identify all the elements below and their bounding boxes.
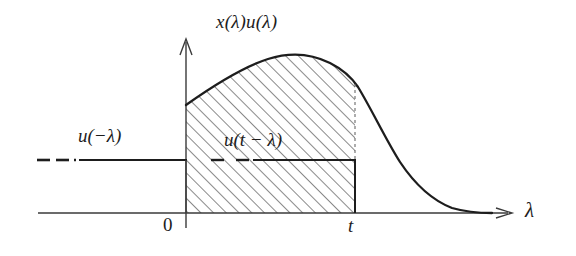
x-axis-label: λ (525, 200, 534, 221)
convolution-figure: x(λ)u(λ) u(−λ) u(t − λ) 0 t λ (0, 0, 576, 256)
left-step-function (37, 160, 187, 213)
left-step-label: u(−λ) (78, 126, 121, 145)
origin-tick-label: 0 (163, 215, 173, 234)
right-step-label: u(t − λ) (224, 130, 282, 149)
t-tick-label: t (348, 216, 353, 235)
curve-label: x(λ)u(λ) (216, 12, 277, 31)
